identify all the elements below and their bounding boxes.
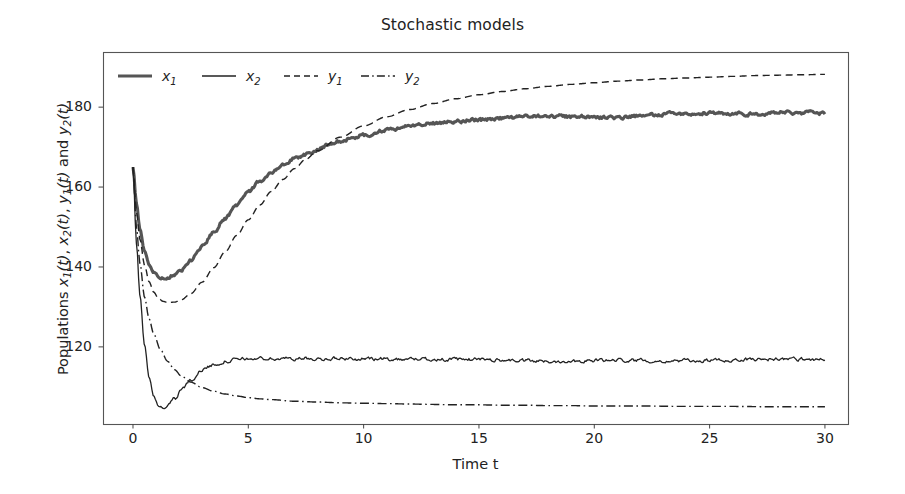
series-line-y1	[133, 74, 825, 302]
legend-label-sub: 2	[413, 76, 419, 87]
chart-legend: x1x2y1y2	[118, 68, 420, 87]
plot-frame	[104, 53, 849, 425]
legend-label-y2: y2	[404, 68, 420, 87]
legend-label-sub: 1	[336, 76, 342, 87]
chart-figure: Stochastic models Populations x1(t), x2(…	[0, 0, 905, 494]
plot-area: x1x2y1y2	[0, 0, 905, 494]
series-line-y2	[133, 167, 825, 407]
legend-label-y1: y1	[327, 68, 343, 87]
legend-label-x1: x1	[161, 68, 177, 87]
legend-label-x2: x2	[245, 68, 261, 87]
legend-label-sub: 2	[254, 76, 260, 87]
series-line-x1	[133, 111, 825, 279]
legend-label-sub: 1	[170, 76, 176, 87]
